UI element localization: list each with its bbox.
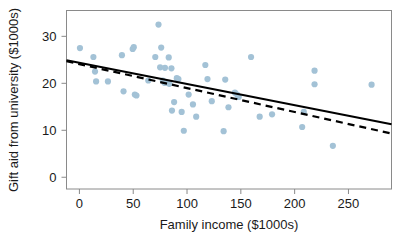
scatter-point xyxy=(90,54,96,60)
scatter-point xyxy=(202,62,208,68)
x-axis-label: Family income ($1000s) xyxy=(160,217,299,232)
chart-canvas: 050100150200250 0102030 Family income ($… xyxy=(0,0,409,245)
scatter-point xyxy=(93,78,99,84)
scatter-point xyxy=(299,124,305,130)
scatter-point xyxy=(131,44,137,50)
scatter-point xyxy=(204,76,210,82)
x-tick-label: 200 xyxy=(284,196,306,211)
scatter-point xyxy=(248,54,254,60)
scatter-point xyxy=(168,65,174,71)
scatter-point xyxy=(105,78,111,84)
scatter-point xyxy=(155,21,161,27)
scatter-point xyxy=(311,68,317,74)
scatter-point xyxy=(257,114,263,120)
scatter-point xyxy=(368,82,374,88)
scatter-point xyxy=(120,88,126,94)
x-tick-label: 50 xyxy=(126,196,140,211)
x-tick-label: 100 xyxy=(176,196,198,211)
scatter-point xyxy=(330,143,336,149)
scatter-point xyxy=(158,45,164,51)
scatter-point xyxy=(222,76,228,82)
scatter-point xyxy=(225,104,231,110)
scatter-point xyxy=(193,114,199,120)
scatter-point xyxy=(186,91,192,97)
scatter-point xyxy=(77,45,83,51)
scatter-point xyxy=(209,98,215,104)
x-tick-label: 250 xyxy=(338,196,360,211)
scatter-point xyxy=(221,128,227,134)
x-tick-label: 0 xyxy=(76,196,83,211)
scatter-point xyxy=(133,92,139,98)
scatter-point xyxy=(169,107,175,113)
y-tick-label: 20 xyxy=(42,76,56,91)
y-tick-label: 0 xyxy=(49,170,56,185)
scatter-point xyxy=(311,81,317,87)
scatter-point xyxy=(92,68,98,74)
y-axis-label: Gift aid from university ($1000s) xyxy=(6,8,21,192)
scatter-point xyxy=(162,65,168,71)
scatter-point xyxy=(119,52,125,58)
scatter-point xyxy=(190,101,196,107)
x-tick-label: 150 xyxy=(230,196,252,211)
y-tick-label: 10 xyxy=(42,123,56,138)
y-tick-label: 30 xyxy=(42,29,56,44)
scatter-plot-figure: 050100150200250 0102030 Family income ($… xyxy=(0,0,409,245)
scatter-point xyxy=(152,54,158,60)
scatter-point xyxy=(166,54,172,60)
scatter-point xyxy=(181,128,187,134)
scatter-point xyxy=(179,109,185,115)
scatter-point xyxy=(269,111,275,117)
scatter-point xyxy=(171,99,177,105)
